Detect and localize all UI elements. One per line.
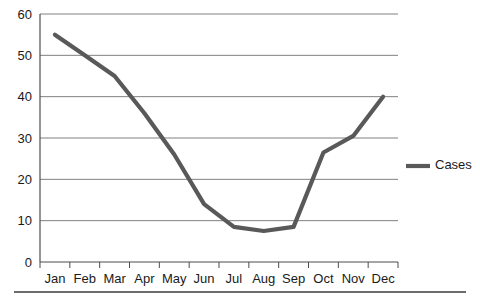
x-axis-tick-labels: JanFebMarAprMayJunJulAugSepOctNovDec	[44, 271, 395, 286]
x-tick-label-feb: Feb	[74, 271, 96, 286]
x-tick-label-jun: Jun	[194, 271, 215, 286]
y-tick-label-40: 40	[18, 89, 32, 104]
y-tick-label-10: 10	[18, 213, 32, 228]
x-axis-ticks	[40, 262, 398, 268]
x-tick-label-jan: Jan	[44, 271, 65, 286]
x-tick-label-oct: Oct	[313, 271, 334, 286]
x-tick-label-jul: Jul	[226, 271, 243, 286]
chart-canvas: 0102030405060 JanFebMarAprMayJunJulAugSe…	[0, 0, 480, 301]
y-tick-label-0: 0	[25, 255, 32, 270]
y-tick-label-20: 20	[18, 172, 32, 187]
x-tick-label-aug: Aug	[252, 271, 275, 286]
y-axis-tick-labels: 0102030405060	[18, 7, 32, 270]
y-tick-label-60: 60	[18, 7, 32, 22]
x-tick-label-dec: Dec	[372, 271, 396, 286]
x-tick-label-apr: Apr	[134, 271, 155, 286]
line-chart: 0102030405060 JanFebMarAprMayJunJulAugSe…	[0, 0, 480, 301]
y-tick-label-50: 50	[18, 48, 32, 63]
y-tick-label-30: 30	[18, 131, 32, 146]
x-tick-label-mar: Mar	[103, 271, 126, 286]
chart-legend: Cases	[406, 157, 472, 172]
x-tick-label-may: May	[162, 271, 187, 286]
legend-label-cases: Cases	[435, 157, 472, 172]
x-tick-label-sep: Sep	[282, 271, 305, 286]
x-tick-label-nov: Nov	[342, 271, 366, 286]
